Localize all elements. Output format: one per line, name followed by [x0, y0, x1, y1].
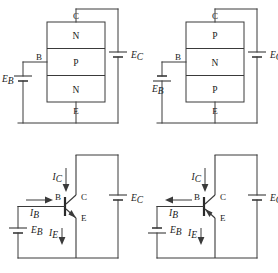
npn-sym-collector-diagonal — [66, 195, 76, 204]
pnp-sym-emitter-arrowhead — [205, 209, 213, 217]
npn-collector-label: C — [73, 11, 79, 21]
npn-sym-ic-label: IC — [51, 172, 62, 184]
pnp-sym-ie-arrowhead — [198, 237, 205, 245]
pnp-emitter-label: E — [212, 106, 218, 116]
npn-emitter-label: E — [73, 106, 79, 116]
npn-sym-emitter-label: E — [81, 213, 87, 223]
panel-npn-block: C N P N E B EB EC — [1, 9, 144, 123]
pnp-ec-source-label: EC — [269, 50, 278, 62]
pnp-collector-label: C — [212, 11, 218, 21]
npn-layer-emitter-label: N — [73, 85, 80, 95]
pnp-sym-emitter-label: E — [220, 213, 226, 223]
pnp-sym-collector-diagonal — [205, 195, 215, 204]
pnp-sym-base-label: B — [194, 192, 200, 202]
npn-layer-base-label: P — [73, 58, 78, 68]
pnp-sym-ib-label: IB — [168, 208, 178, 220]
npn-base-label: B — [36, 52, 42, 62]
npn-sym-ib-arrowhead — [45, 197, 53, 204]
pnp-sym-ec-source-label: EC — [269, 193, 278, 205]
pnp-base-label: B — [175, 52, 181, 62]
npn-sym-ie-arrowhead — [59, 237, 66, 245]
npn-sym-ec-source-label: EC — [130, 193, 144, 205]
pnp-layer-collector-label: P — [212, 31, 217, 41]
transistor-figure: C N P N E B EB EC C P N P E B EB — [0, 0, 278, 273]
npn-sym-ie-label: IE — [48, 228, 58, 240]
npn-eb-source-label: EB — [1, 74, 14, 86]
pnp-sym-ie-label: IE — [187, 228, 197, 240]
panel-npn-symbol: IC IB IE B C E EB EC — [9, 155, 144, 258]
circuit-diagram-canvas: C N P N E B EB EC C P N P E B EB — [0, 0, 278, 273]
npn-layer-collector-label: N — [73, 31, 80, 41]
pnp-eb-source-label: EB — [151, 84, 164, 96]
npn-sym-base-label: B — [55, 192, 61, 202]
npn-sym-emitter-arrowhead — [69, 210, 77, 218]
pnp-sym-eb-source-label: EB — [169, 225, 182, 237]
pnp-layer-base-label: N — [212, 58, 219, 68]
panel-pnp-block: C P N P E B EB EC — [151, 9, 278, 123]
npn-sym-eb-source-label: EB — [30, 225, 43, 237]
panel-pnp-symbol: IC IB IE B C E EB EC — [148, 155, 278, 258]
pnp-sym-ic-label: IC — [190, 172, 201, 184]
pnp-sym-ib-arrowhead — [165, 197, 173, 204]
pnp-sym-ic-arrowhead — [202, 184, 209, 192]
pnp-sym-collector-label: C — [220, 192, 226, 202]
npn-sym-ib-label: IB — [29, 208, 39, 220]
pnp-layer-emitter-label: P — [212, 85, 217, 95]
npn-sym-ic-arrowhead — [63, 184, 70, 192]
npn-ec-source-label: EC — [130, 50, 144, 62]
npn-sym-collector-label: C — [81, 192, 87, 202]
